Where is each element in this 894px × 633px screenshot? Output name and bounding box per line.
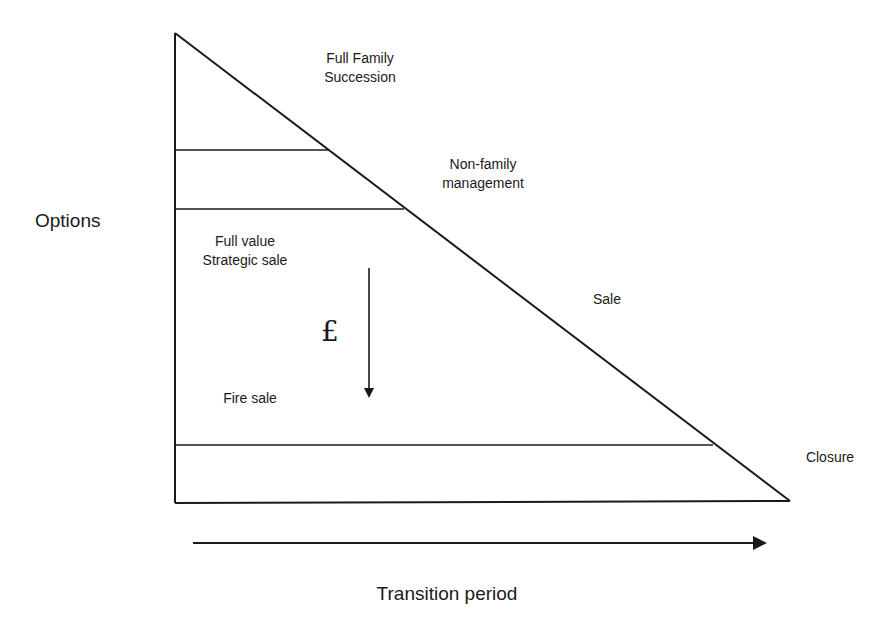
y-axis-label-options: Options xyxy=(35,210,100,232)
label-line: Non-family xyxy=(423,155,543,174)
x-axis-label-transition-period: Transition period xyxy=(372,583,522,605)
label-line: management xyxy=(423,174,543,193)
label-line: Succession xyxy=(305,68,415,87)
label-line: Sale xyxy=(582,290,632,309)
pound-value-icon: £ xyxy=(312,317,348,347)
label-line: Full Family xyxy=(305,49,415,68)
label-non-family-management: Non-family management xyxy=(423,155,543,193)
label-fire-sale: Fire sale xyxy=(200,389,300,408)
label-line: Fire sale xyxy=(200,389,300,408)
diagram-graphics xyxy=(0,0,894,633)
label-closure: Closure xyxy=(790,448,870,467)
label-line: Closure xyxy=(790,448,870,467)
label-full-value-strategic-sale: Full value Strategic sale xyxy=(185,232,305,270)
label-full-family-succession: Full Family Succession xyxy=(305,49,415,87)
label-line: Full value xyxy=(185,232,305,251)
label-sale: Sale xyxy=(582,290,632,309)
options-transition-diagram: Full Family Succession Non-family manage… xyxy=(0,0,894,633)
label-line: Strategic sale xyxy=(185,251,305,270)
triangle-base-edge xyxy=(175,501,790,503)
